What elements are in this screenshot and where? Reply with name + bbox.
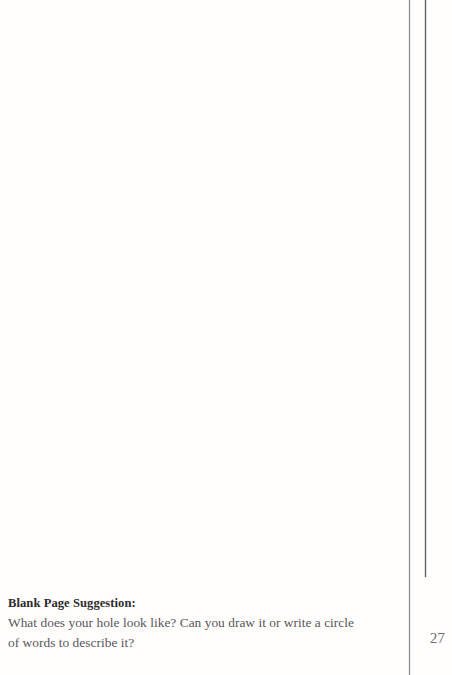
blank-page-suggestion-note: Blank Page Suggestion: What does your ho…: [8, 596, 364, 652]
blank-page-area: [0, 0, 408, 590]
book-page: Blank Page Suggestion: What does your ho…: [0, 0, 452, 675]
vertical-rule-outer: [409, 0, 410, 675]
page-number: 27: [430, 629, 452, 647]
vertical-rule-inner: [425, 0, 426, 577]
note-heading: Blank Page Suggestion:: [8, 596, 364, 611]
note-body: What does your hole look like? Can you d…: [8, 613, 364, 652]
